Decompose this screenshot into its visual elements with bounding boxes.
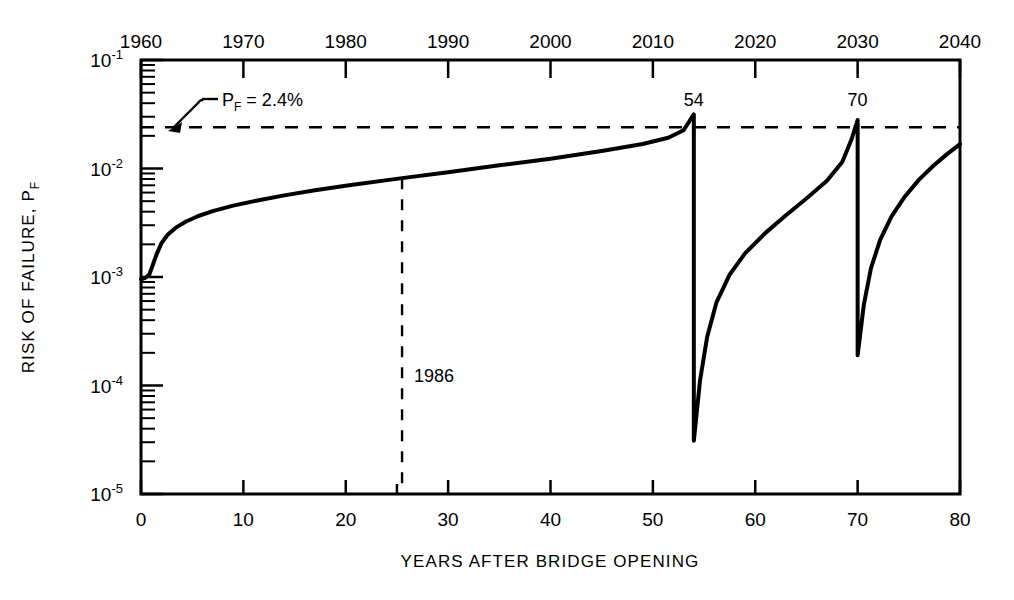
x-tick-label: 30 <box>438 509 459 530</box>
risk-of-failure-chart: 196019701980199020002010202020302040 010… <box>0 0 1014 600</box>
top-tick-label: 1990 <box>427 31 469 52</box>
y-tick-label: 10-3 <box>90 264 123 288</box>
svg-text:RISK OF FAILURE, PF: RISK OF FAILURE, PF <box>19 181 42 374</box>
x-tick-label: 60 <box>745 509 766 530</box>
top-axis-tick-labels: 196019701980199020002010202020302040 <box>120 31 981 52</box>
top-tick-label: 1980 <box>325 31 367 52</box>
y-tick-label: 10-2 <box>90 156 123 180</box>
x-tick-label: 50 <box>642 509 663 530</box>
y-tick-label: 10-4 <box>90 373 123 397</box>
x-tick-label: 80 <box>949 509 970 530</box>
top-tick-label: 1960 <box>120 31 162 52</box>
y-tick-label: 10-1 <box>90 47 123 71</box>
top-tick-label: 2040 <box>939 31 981 52</box>
top-tick-label: 2000 <box>529 31 571 52</box>
y-tick-label: 10-5 <box>90 481 123 505</box>
plot-frame <box>141 60 960 494</box>
x-axis-title: YEARS AFTER BRIDGE OPENING <box>401 552 700 571</box>
top-tick-label: 2010 <box>632 31 674 52</box>
x-tick-label: 70 <box>847 509 868 530</box>
bottom-axis-tick-labels: 01020304050607080 <box>136 509 971 530</box>
y-axis-tick-labels: 10-510-410-310-210-1 <box>90 47 123 505</box>
year-1986-label: 1986 <box>414 366 454 386</box>
top-axis-ticks <box>141 60 960 78</box>
top-tick-label: 2020 <box>734 31 776 52</box>
peak-label-54: 54 <box>684 90 704 110</box>
bottom-axis-ticks <box>141 480 960 494</box>
peak-label-70: 70 <box>848 90 868 110</box>
x-tick-label: 40 <box>540 509 561 530</box>
threshold-label: PF = 2.4% <box>222 90 303 114</box>
year-1986-marker: 1986 <box>402 178 454 494</box>
chart-svg: 196019701980199020002010202020302040 010… <box>0 0 1014 600</box>
top-tick-label: 1970 <box>222 31 264 52</box>
data-series-risk-of-failure <box>141 114 960 440</box>
x-tick-label: 0 <box>136 509 147 530</box>
y-axis-title: RISK OF FAILURE, PF <box>19 181 42 374</box>
x-tick-label: 20 <box>335 509 356 530</box>
x-tick-label: 10 <box>233 509 254 530</box>
top-tick-label: 2030 <box>836 31 878 52</box>
